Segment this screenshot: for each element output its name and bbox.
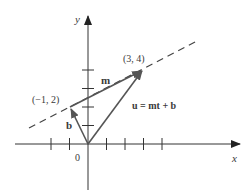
point-label-neg1-2: (−1, 2) [32, 95, 59, 105]
vector-b [71, 109, 88, 144]
x-axis-label: x [232, 153, 237, 164]
vector-b-label: b [66, 120, 72, 131]
vector-line-diagram: y x 0 (3, 4) (−1, 2) m b u = mt + b [0, 0, 252, 192]
point-label-3-4: (3, 4) [123, 54, 145, 64]
y-axis-label: y [75, 14, 80, 25]
vector-u-label: u = mt + b [132, 101, 176, 111]
vector-m-label: m [101, 75, 110, 86]
origin-label: 0 [75, 153, 80, 163]
